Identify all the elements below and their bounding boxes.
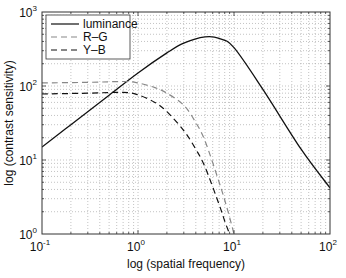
data-series: [42, 37, 330, 234]
y-tick-label: 103: [19, 4, 37, 20]
y-tick-label: 101: [19, 152, 37, 168]
legend-label: luminance: [83, 17, 138, 31]
y-axis-label: log (contrast sensitivity): [2, 60, 16, 185]
series-r-g-line: [42, 82, 234, 234]
x-axis-label: log (spatial frequency): [127, 257, 245, 271]
legend-label: R–G: [83, 30, 108, 44]
x-tick-label: 101: [223, 238, 241, 254]
x-tick-label: 102: [319, 238, 337, 254]
y-tick-label: 102: [19, 78, 37, 94]
legend: luminanceR–GY–B: [46, 15, 138, 59]
x-tick-labels: 10-1100101102: [30, 238, 338, 254]
x-tick-label: 100: [127, 238, 145, 254]
y-tick-labels: 100101102103: [19, 4, 37, 242]
contrast-sensitivity-chart: 10-1100101102 100101102103 log (spatial …: [0, 0, 346, 278]
x-tick-label: 10-1: [30, 238, 51, 254]
legend-label: Y–B: [83, 43, 106, 57]
